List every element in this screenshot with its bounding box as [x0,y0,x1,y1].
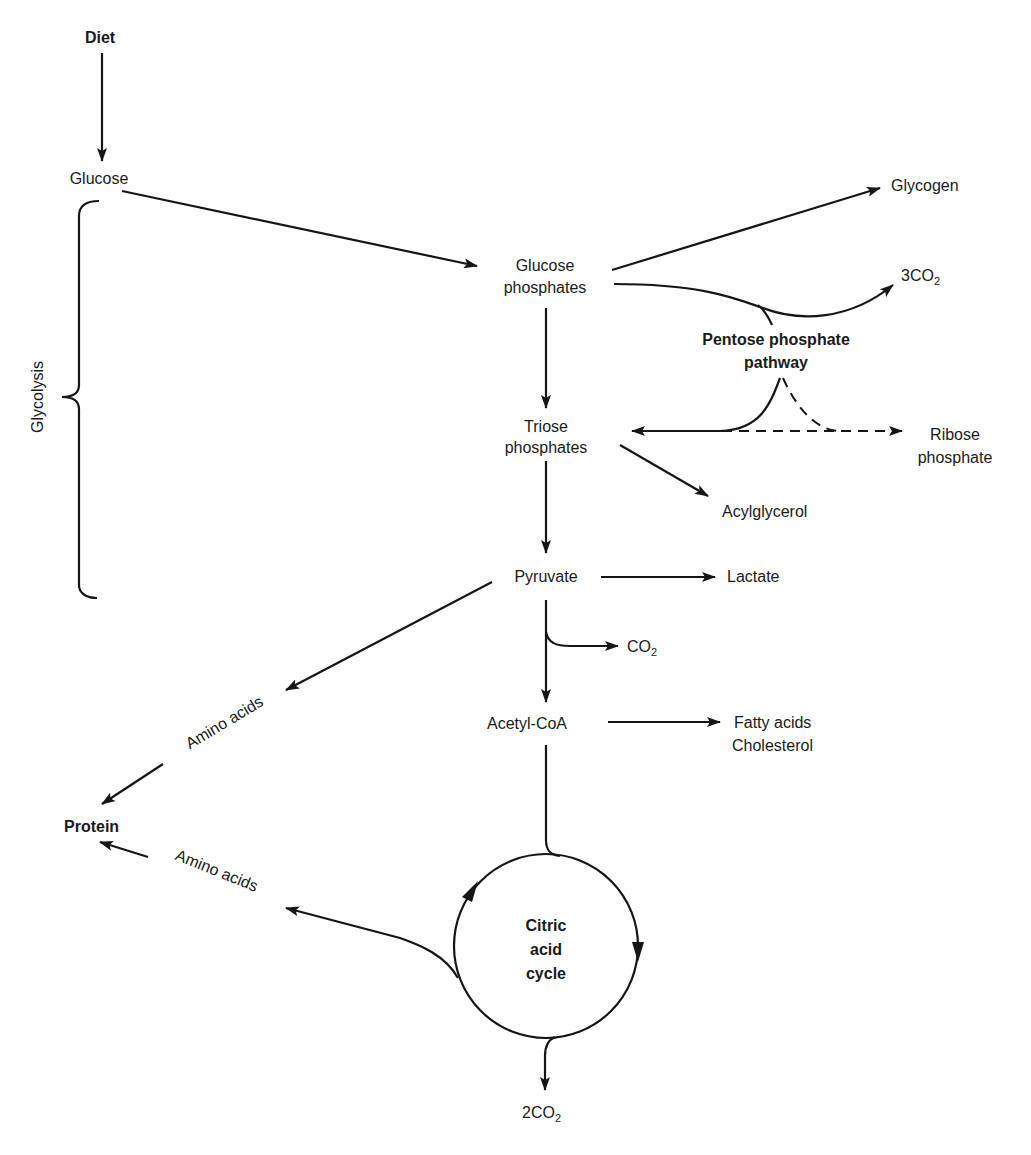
node-glucose-phosphates-line1: Glucose [516,257,575,274]
arrow-citric-amino-acids [286,908,458,978]
cycle-arrow-left [462,881,478,902]
metabolism-diagram: Diet Glucose Glucose phosphates Glycogen… [0,0,1031,1155]
arrow-pyruvate-co2 [546,632,618,646]
glycolysis-bracket [62,201,99,598]
node-glucose-phosphates-line2: phosphates [504,279,587,296]
cycle-arrow-right [632,942,644,962]
node-pentose-line2: pathway [744,354,808,371]
arrow-pentose-ribose-curve [783,378,840,431]
node-triose-line1: Triose [524,418,568,435]
arrow-triose-acylglycerol [620,445,708,496]
arrow-amino-acids-protein-lower [100,842,148,857]
label-amino-acids-lower: Amino acids [173,846,260,894]
node-pyruvate: Pyruvate [514,568,577,585]
node-glucose: Glucose [70,170,129,187]
arrow-citric-2co2 [545,1037,555,1090]
node-co2: CO2 [627,638,657,658]
node-diet: Diet [85,29,116,46]
node-acetyl-coa: Acetyl-CoA [487,715,567,732]
node-2co2: 2CO2 [522,1104,561,1124]
node-pentose-line1: Pentose phosphate [702,331,850,348]
arrow-amino-acids-protein-upper [102,764,163,804]
arrow-acetyl-coa-citric [546,745,560,856]
arrow-glucose-phosphates-3co2 [614,284,893,316]
node-acylglycerol: Acylglycerol [722,503,807,520]
arrow-glucose-phosphates-glycogen [612,188,880,270]
label-amino-acids-upper: Amino acids [183,693,266,752]
node-glycogen: Glycogen [891,177,959,194]
node-ribose-line2: phosphate [918,449,993,466]
node-citric-line2: acid [530,941,562,958]
arrow-pyruvate-amino-acids [286,582,492,690]
node-triose-line2: phosphates [505,439,588,456]
node-protein: Protein [64,818,119,835]
node-citric-line1: Citric [526,917,567,934]
label-glycolysis: Glycolysis [29,361,46,433]
node-3co2: 3CO2 [901,267,940,287]
arrow-pentose-triose [632,378,780,431]
node-fatty-acids: Fatty acids [734,714,811,731]
node-lactate: Lactate [727,568,780,585]
node-cholesterol: Cholesterol [732,737,813,754]
node-ribose-line1: Ribose [930,426,980,443]
arrow-glucose-glucose-phosphates [122,191,477,266]
node-citric-line3: cycle [526,965,566,982]
